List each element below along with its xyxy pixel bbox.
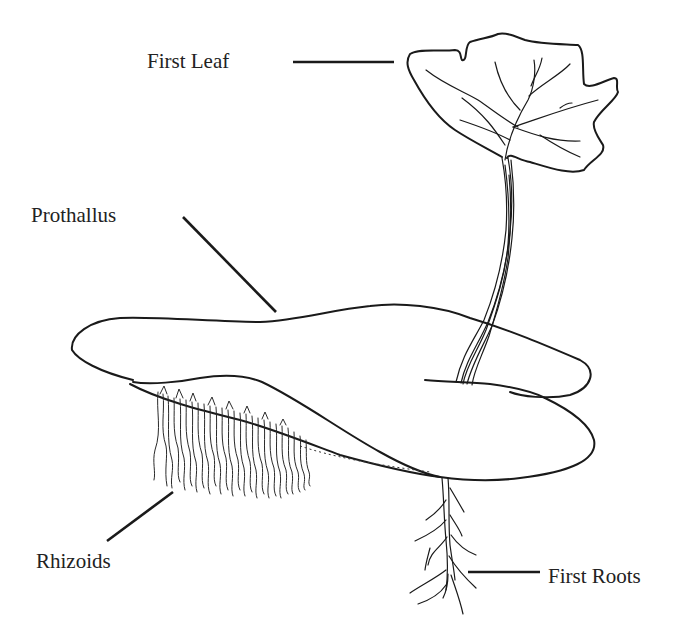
first-roots-drawing [410,478,476,614]
fern-illustration [0,0,694,639]
leader-prothallus [183,217,276,312]
label-prothallus: Prothallus [31,205,116,226]
label-rhizoids: Rhizoids [36,551,111,572]
leader-rhizoids [107,492,173,541]
first-leaf-drawing [407,33,618,171]
prothallus-drawing [72,305,595,481]
label-first-leaf: First Leaf [147,51,229,72]
stipe-drawing [456,158,514,385]
diagram-canvas: First Leaf Prothallus Rhizoids First Roo… [0,0,694,639]
label-first-roots: First Roots [548,566,641,587]
